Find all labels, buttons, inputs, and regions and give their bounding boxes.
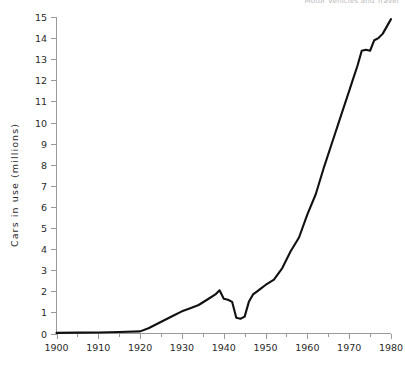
clipped-header-text: Motor Vehicles and Travel <box>304 0 399 3</box>
x-tick-label: 1930 <box>170 342 194 353</box>
y-tick-label: 14 <box>35 33 47 44</box>
x-tick-label: 1900 <box>44 342 68 353</box>
y-tick-label: 8 <box>41 160 47 171</box>
chart-figure: Motor Vehicles and Travel 01234567891011… <box>0 0 405 367</box>
y-tick-label: 4 <box>41 244 47 255</box>
y-tick-label: 7 <box>41 181 47 192</box>
x-tick-marks <box>58 334 392 340</box>
y-tick-label: 12 <box>35 75 47 86</box>
y-tick-label: 2 <box>41 286 47 297</box>
y-axis-title: Cars in use (millions) <box>9 123 20 247</box>
x-axis: 190019101920193019401950196019701980 <box>44 334 403 353</box>
y-tick-label: 6 <box>41 202 47 213</box>
x-tick-label: 1950 <box>253 342 277 353</box>
x-tick-labels: 190019101920193019401950196019701980 <box>44 342 403 353</box>
x-tick-label: 1920 <box>128 342 152 353</box>
y-axis: 0123456789101112131415 <box>35 12 57 340</box>
line-chart: 0123456789101112131415 19001910192019301… <box>0 0 405 367</box>
y-tick-labels: 0123456789101112131415 <box>35 12 47 340</box>
y-tick-label: 3 <box>41 265 47 276</box>
y-tick-label: 13 <box>35 54 47 65</box>
y-tick-label: 5 <box>41 223 47 234</box>
y-tick-label: 1 <box>41 307 47 318</box>
y-tick-marks <box>51 18 57 335</box>
y-tick-label: 0 <box>41 329 47 340</box>
y-tick-label: 10 <box>35 118 47 129</box>
y-tick-label: 15 <box>35 12 47 23</box>
x-tick-label: 1940 <box>212 342 236 353</box>
x-tick-label: 1960 <box>295 342 319 353</box>
data-series-line <box>57 19 392 333</box>
x-tick-label: 1970 <box>337 342 361 353</box>
x-tick-label: 1910 <box>86 342 110 353</box>
y-tick-label: 9 <box>41 139 47 150</box>
y-tick-label: 11 <box>35 96 47 107</box>
x-tick-label: 1980 <box>379 342 403 353</box>
